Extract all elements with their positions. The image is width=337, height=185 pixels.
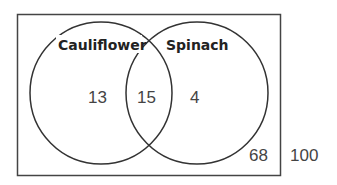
outside-count: 68: [249, 146, 268, 165]
intersection-count: 15: [137, 88, 156, 107]
cauliflower-label: Cauliflower: [58, 37, 147, 53]
universe-total: 100: [290, 146, 318, 165]
cauliflower-only-count: 13: [88, 88, 107, 107]
venn-diagram: Cauliflower Spinach 13 15 4 68 100: [0, 0, 337, 185]
spinach-only-count: 4: [190, 88, 199, 107]
spinach-label: Spinach: [166, 37, 229, 53]
